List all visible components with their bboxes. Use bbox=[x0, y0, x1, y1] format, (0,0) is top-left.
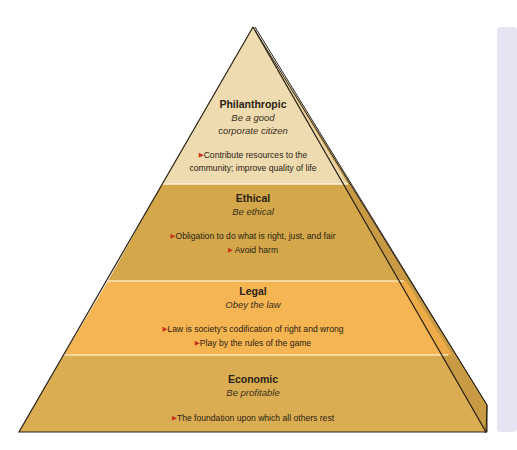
layer-ethical: Ethical Be ethical ▶Obligation to do wha… bbox=[0, 192, 506, 257]
layer-subtitle: Be profitable bbox=[0, 386, 506, 399]
layer-bullet: ▶Obligation to do what is right, just, a… bbox=[0, 229, 506, 243]
layer-subtitle: Be a good bbox=[0, 111, 506, 124]
bullet-arrow-icon: ▶ bbox=[228, 246, 233, 253]
layer-title: Legal bbox=[0, 285, 506, 298]
layer-bullet: community; improve quality of life bbox=[0, 162, 506, 175]
layer-title: Philanthropic bbox=[0, 98, 506, 111]
layer-title: Ethical bbox=[0, 192, 506, 205]
layer-bullet: ▶The foundation upon which all others re… bbox=[0, 411, 506, 425]
layer-economic: Economic Be profitable ▶The foundation u… bbox=[0, 373, 506, 425]
layer-subtitle: corporate citizen bbox=[0, 124, 506, 137]
layer-legal: Legal Obey the law ▶Law is society's cod… bbox=[0, 285, 506, 350]
layer-bullet: ▶Contribute resources to the bbox=[0, 148, 506, 162]
layer-bullet: ▶ Avoid harm bbox=[0, 243, 506, 257]
layer-title: Economic bbox=[0, 373, 506, 386]
layer-bullet: ▶Play by the rules of the game bbox=[0, 336, 506, 350]
layer-subtitle: Obey the law bbox=[0, 298, 506, 311]
layer-bullet: ▶Law is society's codification of right … bbox=[0, 322, 506, 336]
layer-subtitle: Be ethical bbox=[0, 205, 506, 218]
layer-philanthropic: Philanthropic Be a good corporate citize… bbox=[0, 98, 506, 175]
